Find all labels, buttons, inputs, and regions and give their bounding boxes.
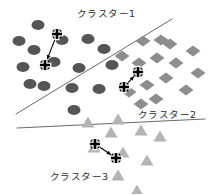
data-point-circle (93, 84, 106, 94)
data-point-circle (106, 60, 119, 70)
cluster-label-2: クラスター2 (138, 110, 196, 120)
plot-canvas (0, 0, 215, 194)
data-point-triangle (112, 114, 125, 125)
data-point-circle (24, 79, 37, 89)
data-point-diamond (140, 80, 155, 91)
data-point-triangle (141, 155, 154, 166)
data-point-triangle (154, 131, 167, 142)
data-point-circle (32, 20, 45, 30)
data-point-triangle (105, 127, 118, 138)
data-point-diamond (169, 58, 184, 69)
data-markers-group (13, 20, 206, 194)
data-point-circle (38, 81, 51, 91)
data-point-triangle (82, 117, 95, 128)
data-point-triangle (135, 125, 148, 136)
cluster-label-3: クラスター3 (50, 172, 108, 182)
centroid-marker-cross (132, 66, 143, 77)
data-point-diamond (136, 36, 151, 47)
data-point-diamond (149, 94, 164, 105)
data-point-circle (17, 62, 30, 72)
data-point-circle (68, 105, 81, 115)
data-point-diamond (159, 73, 174, 84)
data-point-circle (66, 83, 79, 93)
cluster-label-1: クラスター1 (77, 9, 135, 19)
data-point-diamond (179, 85, 194, 96)
data-point-circle (13, 36, 26, 46)
data-point-circle (28, 45, 41, 55)
data-point-triangle (112, 170, 125, 181)
data-point-circle (73, 63, 86, 73)
data-point-diamond (134, 99, 149, 110)
data-point-triangle (131, 185, 144, 195)
data-point-diamond (186, 46, 201, 57)
data-point-diamond (191, 68, 206, 79)
data-point-circle (82, 34, 95, 44)
cluster-scatter-diagram: クラスター1 クラスター2 クラスター3 (0, 0, 215, 194)
data-point-diamond (150, 53, 165, 64)
data-point-circle (98, 44, 111, 54)
